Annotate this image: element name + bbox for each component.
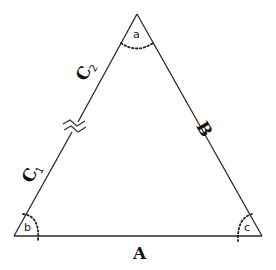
vertex-label-a: a <box>133 28 140 41</box>
side-label-B: B <box>192 118 217 140</box>
break-mark-icon <box>63 120 86 132</box>
side-C1 <box>14 132 72 236</box>
vertex-label-c: c <box>244 221 250 234</box>
side-label-A: A <box>132 243 147 263</box>
angle-arc-a <box>121 43 153 49</box>
side-label-B-group: B <box>192 118 217 140</box>
side-label-C2-group: C 2 <box>71 57 100 84</box>
side-label-C1-group: C 1 <box>17 159 46 186</box>
vertex-label-b: b <box>24 221 31 234</box>
triangle-diagram: a b c A B C 1 C 2 <box>0 0 276 270</box>
